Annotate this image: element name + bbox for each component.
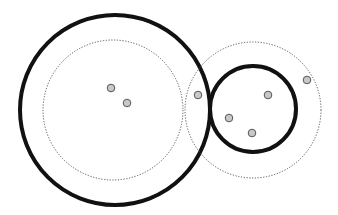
data-point [123,99,131,107]
data-point [225,114,233,122]
right-dotted-circle [185,42,321,178]
data-point [248,129,256,137]
right-cluster [185,42,321,178]
cluster-diagram [0,0,338,215]
data-point [303,76,311,84]
left-dotted-circle [43,40,183,180]
data-point [264,91,272,99]
left-cluster [20,15,210,205]
right-solid-circle [210,66,296,152]
data-point [107,84,115,92]
data-point [194,91,202,99]
left-solid-circle [20,15,210,205]
